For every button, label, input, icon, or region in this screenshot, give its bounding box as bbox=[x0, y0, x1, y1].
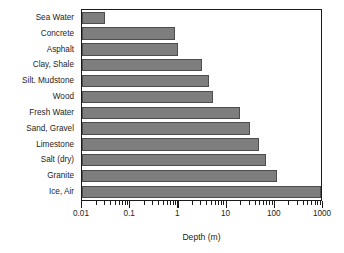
x-tick-minor bbox=[152, 201, 153, 205]
x-tick-minor bbox=[215, 201, 216, 205]
bar bbox=[82, 27, 175, 39]
x-tick-label: 100 bbox=[267, 209, 281, 218]
bar bbox=[82, 43, 178, 55]
category-label: Ice, Air bbox=[0, 184, 78, 200]
category-label: Salt (dry) bbox=[0, 152, 78, 168]
x-tick-minor bbox=[127, 201, 128, 205]
x-tick-minor bbox=[175, 201, 176, 205]
bar bbox=[82, 59, 202, 71]
x-tick-major bbox=[226, 201, 227, 208]
bar bbox=[82, 170, 277, 182]
bar bbox=[82, 107, 240, 119]
x-tick-minor bbox=[96, 201, 97, 205]
x-axis-tick-labels: 0.010.11101001000 bbox=[81, 209, 322, 221]
x-tick-minor bbox=[115, 201, 116, 205]
category-label: Wood bbox=[0, 89, 78, 105]
x-tick-minor bbox=[311, 201, 312, 205]
x-tick-minor bbox=[315, 201, 316, 205]
x-tick-minor bbox=[200, 201, 201, 205]
category-label: Clay, Shale bbox=[0, 57, 78, 73]
bar bbox=[82, 122, 250, 134]
x-tick-minor bbox=[104, 201, 105, 205]
x-tick-label: 0.1 bbox=[123, 209, 134, 218]
x-tick-minor bbox=[263, 201, 264, 205]
x-tick-minor bbox=[272, 201, 273, 205]
category-label: Silt. Mudstone bbox=[0, 73, 78, 89]
category-axis-labels: Sea WaterConcreteAsphaltClay, ShaleSilt.… bbox=[0, 10, 78, 200]
bar-row bbox=[82, 168, 321, 184]
x-tick-major bbox=[81, 201, 82, 208]
bar-row bbox=[82, 121, 321, 137]
x-tick-minor bbox=[170, 201, 171, 205]
category-label: Sand, Gravel bbox=[0, 121, 78, 137]
x-tick-major bbox=[177, 201, 178, 208]
bar-row bbox=[82, 26, 321, 42]
bar-row bbox=[82, 42, 321, 58]
bar bbox=[82, 186, 321, 198]
x-tick-minor bbox=[259, 201, 260, 205]
x-tick-minor bbox=[288, 201, 289, 205]
category-label: Fresh Water bbox=[0, 105, 78, 121]
x-tick-minor bbox=[317, 201, 318, 205]
bar bbox=[82, 138, 259, 150]
bar bbox=[82, 12, 105, 24]
category-label: Sea Water bbox=[0, 10, 78, 26]
x-tick-minor bbox=[223, 201, 224, 205]
bar-row bbox=[82, 57, 321, 73]
x-tick-minor bbox=[255, 201, 256, 205]
x-tick-minor bbox=[221, 201, 222, 205]
x-tick-minor bbox=[119, 201, 120, 205]
x-tick-minor bbox=[307, 201, 308, 205]
category-label: Granite bbox=[0, 168, 78, 184]
x-tick-minor bbox=[240, 201, 241, 205]
x-tick-minor bbox=[167, 201, 168, 205]
bar-row bbox=[82, 89, 321, 105]
x-tick-minor bbox=[218, 201, 219, 205]
x-tick-minor bbox=[192, 201, 193, 205]
category-label: Limestone bbox=[0, 137, 78, 153]
x-tick-minor bbox=[125, 201, 126, 205]
bar bbox=[82, 91, 213, 103]
bar-row bbox=[82, 73, 321, 89]
x-tick-minor bbox=[144, 201, 145, 205]
x-tick-minor bbox=[303, 201, 304, 205]
x-tick-minor bbox=[158, 201, 159, 205]
x-tick-label: 0.01 bbox=[73, 209, 89, 218]
x-axis-ticks bbox=[81, 201, 322, 209]
bar bbox=[82, 154, 266, 166]
x-tick-minor bbox=[249, 201, 250, 205]
x-tick-major bbox=[322, 201, 323, 208]
bars-container bbox=[82, 10, 321, 200]
x-tick-major bbox=[129, 201, 130, 208]
bar-row bbox=[82, 105, 321, 121]
x-tick-label: 1000 bbox=[313, 209, 331, 218]
x-tick-minor bbox=[297, 201, 298, 205]
x-tick-minor bbox=[110, 201, 111, 205]
x-tick-label: 1 bbox=[175, 209, 180, 218]
x-tick-minor bbox=[266, 201, 267, 205]
category-label: Asphalt bbox=[0, 42, 78, 58]
bar-row bbox=[82, 152, 321, 168]
category-label: Concrete bbox=[0, 26, 78, 42]
bar bbox=[82, 75, 209, 87]
x-tick-minor bbox=[163, 201, 164, 205]
bar-row bbox=[82, 137, 321, 153]
x-tick-minor bbox=[320, 201, 321, 205]
x-tick-minor bbox=[211, 201, 212, 205]
x-tick-label: 10 bbox=[221, 209, 230, 218]
x-tick-minor bbox=[269, 201, 270, 205]
bar-row bbox=[82, 184, 321, 200]
bar-row bbox=[82, 10, 321, 26]
x-tick-minor bbox=[122, 201, 123, 205]
x-tick-minor bbox=[173, 201, 174, 205]
depth-bar-chart: Sea WaterConcreteAsphaltClay, ShaleSilt.… bbox=[0, 0, 344, 253]
x-axis-title: Depth (m) bbox=[81, 232, 322, 242]
x-tick-minor bbox=[206, 201, 207, 205]
x-tick-major bbox=[274, 201, 275, 208]
